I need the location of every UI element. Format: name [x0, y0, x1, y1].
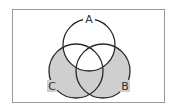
- label-b: B: [121, 80, 129, 93]
- label-c: C: [48, 80, 56, 93]
- venn-diagram: A C B: [0, 0, 171, 112]
- label-a: A: [85, 13, 93, 26]
